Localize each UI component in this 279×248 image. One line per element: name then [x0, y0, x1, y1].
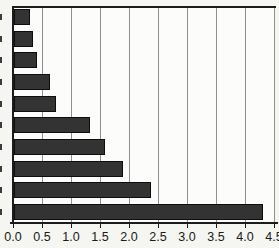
x-tick-4.5	[274, 224, 276, 228]
bar-row-8	[14, 161, 123, 177]
x-tick-3.5	[216, 224, 218, 228]
bar-row-10	[14, 204, 263, 220]
clipped-y-label-1	[0, 14, 2, 20]
bar-chart: 0.00.51.01.52.02.53.03.54.04.5	[0, 0, 279, 248]
x-axis-line	[10, 222, 278, 224]
gridline-x-3.5	[216, 6, 217, 223]
x-tick-3	[187, 224, 189, 228]
x-tick-4	[245, 224, 247, 228]
x-tick-0	[13, 224, 15, 228]
clipped-y-label-7	[0, 144, 2, 150]
x-tick-label-1.0: 1.0	[56, 230, 86, 244]
y-axis-line	[12, 6, 14, 223]
bar-row-4	[14, 74, 50, 90]
gridline-x-2.5	[158, 6, 159, 223]
clipped-y-label-3	[0, 57, 2, 63]
clipped-y-label-8	[0, 166, 2, 172]
clipped-y-label-10	[0, 209, 2, 215]
x-tick-label-3.0: 3.0	[172, 230, 202, 244]
x-tick-label-2.0: 2.0	[114, 230, 144, 244]
bar-row-9	[14, 182, 151, 198]
clipped-y-label-2	[0, 36, 2, 42]
bar-row-1	[14, 9, 30, 25]
bar-row-2	[14, 31, 33, 47]
x-tick-label-0.0: 0.0	[0, 230, 28, 244]
bar-row-7	[14, 139, 105, 155]
gridline-x-3	[187, 6, 188, 223]
x-tick-1	[71, 224, 73, 228]
bar-row-3	[14, 52, 37, 68]
plot-top-border	[12, 6, 276, 8]
clipped-y-label-4	[0, 79, 2, 85]
gridline-x-4	[245, 6, 246, 223]
x-tick-label-3.5: 3.5	[201, 230, 231, 244]
x-tick-label-4.0: 4.0	[230, 230, 260, 244]
x-tick-label-2.5: 2.5	[143, 230, 173, 244]
x-tick-label-0.5: 0.5	[27, 230, 57, 244]
x-tick-1.5	[100, 224, 102, 228]
clipped-y-label-9	[0, 187, 2, 193]
x-tick-label-1.5: 1.5	[85, 230, 115, 244]
bar-row-5	[14, 96, 56, 112]
clipped-y-label-6	[0, 122, 2, 128]
x-tick-2.5	[158, 224, 160, 228]
bar-row-6	[14, 117, 90, 133]
gridline-x-4.5	[274, 6, 275, 223]
x-tick-label-4.5: 4.5	[259, 230, 279, 244]
x-tick-2	[129, 224, 131, 228]
x-tick-0.5	[42, 224, 44, 228]
clipped-y-label-5	[0, 101, 2, 107]
